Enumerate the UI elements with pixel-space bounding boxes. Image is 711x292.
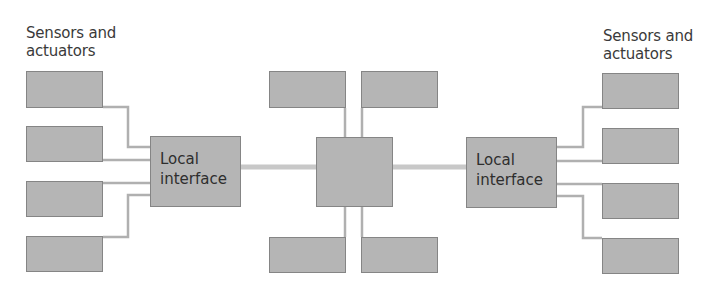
connector-left-4: [103, 195, 150, 237]
connector-left-1: [103, 107, 150, 147]
connector-right-4: [557, 196, 602, 238]
right-sensor-box-3: [602, 183, 679, 219]
network-diagram: Sensors and actuators Sensors and actuat…: [0, 0, 711, 292]
left-local-interface-label: Local interface: [160, 149, 227, 189]
center-top-device-right: [361, 71, 438, 108]
right-group-label-line2: actuators: [603, 45, 672, 63]
right-local-interface-line2: interface: [476, 170, 543, 190]
connector-right-1: [557, 107, 602, 147]
right-local-interface-line1: Local: [476, 150, 543, 170]
center-bottom-device-left: [269, 237, 346, 273]
right-sensor-box-4: [602, 238, 679, 274]
left-sensor-box-1: [26, 71, 103, 108]
left-sensor-box-3: [26, 181, 103, 217]
left-group-label-line1: Sensors and: [26, 24, 116, 42]
center-top-device-left: [269, 71, 346, 108]
left-sensor-box-4: [26, 236, 103, 272]
left-sensor-box-2: [26, 126, 103, 162]
left-local-interface-box: Local interface: [150, 136, 241, 207]
center-bottom-device-right: [361, 237, 438, 273]
left-local-interface-line2: interface: [160, 169, 227, 189]
center-hub-box: [316, 137, 393, 207]
right-local-interface-label: Local interface: [476, 150, 543, 190]
right-group-label-line1: Sensors and: [603, 27, 693, 45]
left-local-interface-line1: Local: [160, 149, 227, 169]
right-sensor-box-1: [602, 73, 679, 109]
left-group-label-line2: actuators: [26, 42, 95, 60]
right-sensor-box-2: [602, 128, 679, 164]
right-local-interface-box: Local interface: [466, 137, 557, 208]
